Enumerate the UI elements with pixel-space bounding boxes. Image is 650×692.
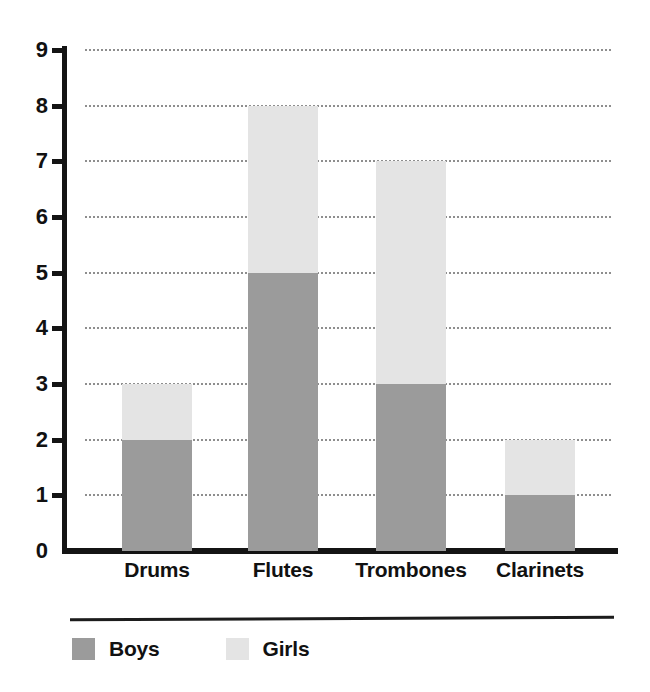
bar-segment-boys xyxy=(248,273,318,551)
bar-segment-girls xyxy=(248,106,318,273)
legend-label-boys: Boys xyxy=(109,637,160,661)
bar-group xyxy=(122,384,192,551)
bar-segment-boys xyxy=(376,384,446,551)
legend-swatch-girls xyxy=(226,638,249,660)
bar-segment-girls xyxy=(122,384,192,440)
legend-label-girls: Girls xyxy=(263,637,310,661)
bar-group xyxy=(376,161,446,551)
legend-item-boys[interactable]: Boys xyxy=(72,637,160,661)
bar-segment-girls xyxy=(505,440,575,496)
bar-segment-girls xyxy=(376,161,446,384)
legend-divider xyxy=(70,616,614,621)
bars-layer xyxy=(0,0,650,551)
legend-item-girls[interactable]: Girls xyxy=(226,637,310,661)
bar-segment-boys xyxy=(122,440,192,551)
bar-segment-boys xyxy=(505,495,575,551)
stacked-bar-chart: 0123456789 DrumsFlutesTrombonesClarinets… xyxy=(0,0,650,692)
chart-legend: BoysGirls xyxy=(72,636,375,662)
bar-group xyxy=(248,106,318,551)
x-axis-label-clarinets: Clarinets xyxy=(460,558,620,582)
legend-swatch-boys xyxy=(72,638,95,660)
bar-group xyxy=(505,440,575,551)
